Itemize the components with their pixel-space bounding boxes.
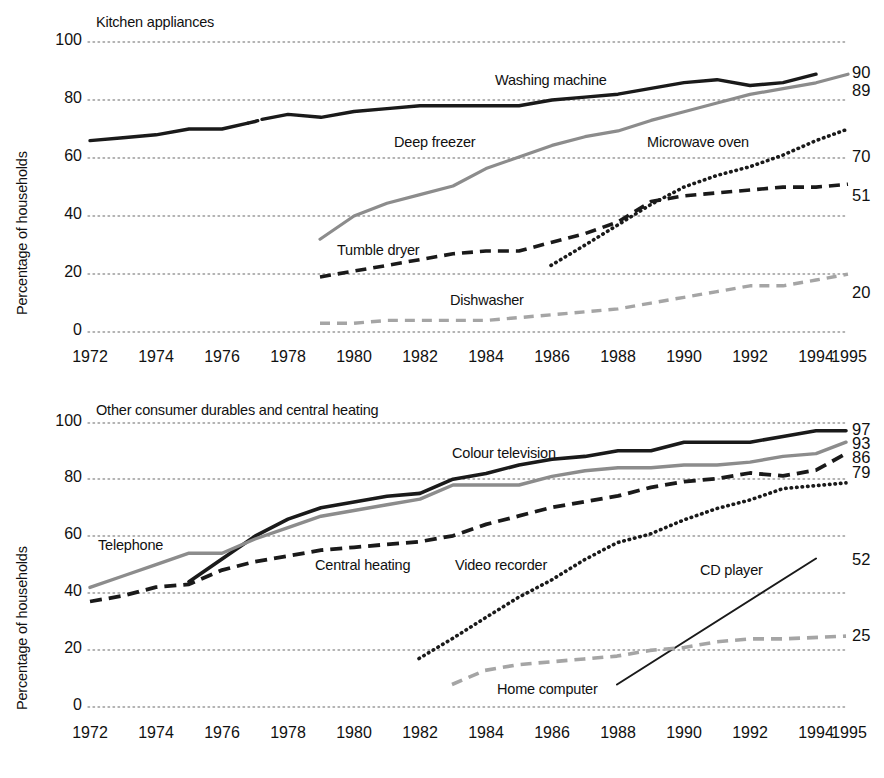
x-tick-top-1972: 1972	[56, 348, 124, 366]
x-tick-bottom-1990: 1990	[650, 724, 718, 742]
y-tick-bottom-80: 80	[40, 468, 82, 486]
x-tick-top-1978: 1978	[254, 348, 322, 366]
x-tick-bottom-1982: 1982	[386, 724, 454, 742]
end-value-tumble-dryer: 51	[852, 186, 870, 205]
x-tick-bottom-1984: 1984	[452, 724, 520, 742]
x-tick-bottom-1980: 1980	[320, 724, 388, 742]
y-tick-top-100: 100	[40, 31, 82, 49]
plot-area-bottom	[0, 390, 884, 778]
x-tick-top-1995: 1995	[815, 348, 883, 366]
end-value-dishwasher: 20	[852, 283, 870, 302]
x-tick-top-1986: 1986	[518, 348, 586, 366]
y-tick-top-60: 60	[40, 147, 82, 165]
x-tick-top-1980: 1980	[320, 348, 388, 366]
chart-kitchen-appliances: Percentage of households Kitchen applian…	[0, 0, 884, 390]
y-tick-bottom-60: 60	[40, 525, 82, 543]
x-tick-top-1982: 1982	[386, 348, 454, 366]
chart-other-consumer-durables: Percentage of households Other consumer …	[0, 390, 884, 778]
x-tick-top-1976: 1976	[188, 348, 256, 366]
x-tick-top-1984: 1984	[452, 348, 520, 366]
x-tick-bottom-1974: 1974	[122, 724, 190, 742]
x-tick-bottom-1995: 1995	[815, 724, 883, 742]
series-label-central-heating: Central heating	[315, 557, 410, 573]
end-value-home-computer: 25	[852, 626, 870, 645]
x-tick-bottom-1978: 1978	[254, 724, 322, 742]
x-tick-top-1992: 1992	[716, 348, 784, 366]
end-value-washing-machine: 90	[852, 63, 870, 82]
y-tick-top-40: 40	[40, 205, 82, 223]
y-tick-bottom-40: 40	[40, 582, 82, 600]
x-tick-bottom-1976: 1976	[188, 724, 256, 742]
series-label-deep-freezer: Deep freezer	[394, 134, 475, 150]
x-tick-bottom-1988: 1988	[584, 724, 652, 742]
x-tick-bottom-1972: 1972	[56, 724, 124, 742]
series-label-dishwasher: Dishwasher	[450, 292, 524, 308]
series-label-tumble-dryer: Tumble dryer	[337, 242, 419, 258]
end-value-deep-freezer: 89	[852, 81, 870, 100]
y-tick-top-80: 80	[40, 89, 82, 107]
x-tick-top-1988: 1988	[584, 348, 652, 366]
series-label-cd-player: CD player	[700, 562, 763, 578]
series-label-washing-machine: Washing machine	[495, 72, 607, 88]
x-tick-bottom-1986: 1986	[518, 724, 586, 742]
series-label-home-computer: Home computer	[497, 681, 598, 697]
plot-area-top	[0, 0, 884, 390]
series-label-microwave-oven: Microwave oven	[647, 134, 749, 150]
series-label-telephone: Telephone	[98, 537, 163, 553]
end-value-cd-player: 52	[852, 550, 870, 569]
end-value-video-recorder: 79	[852, 463, 870, 482]
series-label-video-recorder: Video recorder	[455, 557, 547, 573]
y-tick-top-20: 20	[40, 263, 82, 281]
series-label-colour-television: Colour television	[452, 445, 556, 461]
x-tick-bottom-1992: 1992	[716, 724, 784, 742]
y-tick-bottom-100: 100	[40, 412, 82, 430]
y-tick-top-0: 0	[40, 321, 82, 339]
x-tick-top-1974: 1974	[122, 348, 190, 366]
y-tick-bottom-20: 20	[40, 639, 82, 657]
x-tick-top-1990: 1990	[650, 348, 718, 366]
y-tick-bottom-0: 0	[40, 696, 82, 714]
end-value-microwave-oven: 70	[852, 147, 870, 166]
